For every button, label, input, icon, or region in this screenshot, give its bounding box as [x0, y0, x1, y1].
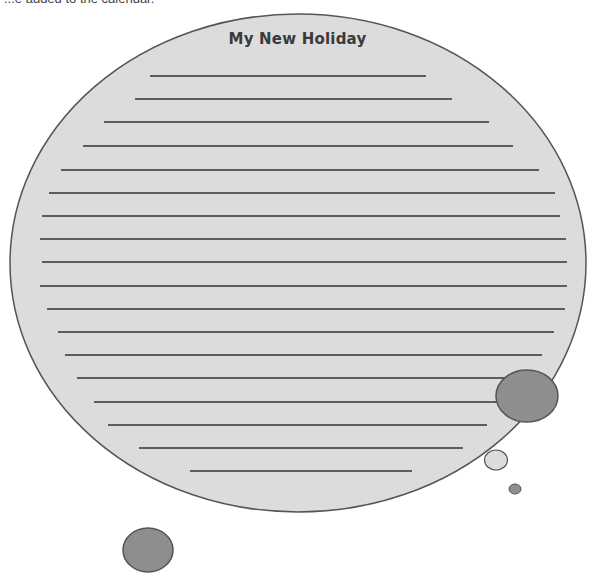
worksheet-title: My New Holiday: [0, 30, 595, 48]
worksheet-page: ...e added to the calendar. My New Holid…: [0, 0, 595, 582]
main-thought-bubble: [10, 14, 586, 512]
thought-bubble-graphic: [0, 0, 595, 582]
tiny-dark-bubble: [509, 484, 521, 494]
small-light-bubble: [485, 450, 508, 470]
bottom-dark-bubble: [123, 528, 173, 572]
large-dark-bubble: [496, 370, 558, 422]
